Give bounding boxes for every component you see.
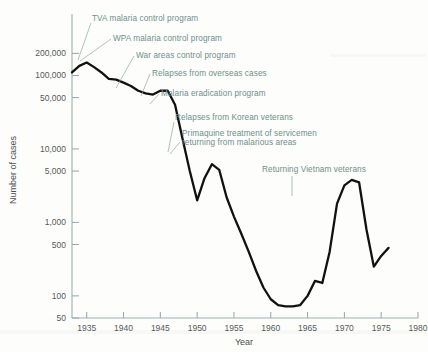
x-tick-label: 1940 [114, 323, 133, 333]
annotation-label-wpa: WPA malaria control program [113, 34, 222, 43]
y-tick-label: 5,000 [45, 166, 67, 176]
chart-series-group [72, 63, 389, 307]
annotation-leader-line [168, 122, 174, 152]
y-tick-label: 1,000 [45, 217, 67, 227]
y-axis-title: Number of cases [8, 135, 18, 204]
annotation-label-tva: TVA malaria control program [92, 14, 198, 23]
chart-axes [72, 14, 418, 318]
annotation-label-primaquine-line2: returning from malarious areas [182, 138, 297, 147]
y-tick-label: 100 [52, 291, 66, 301]
y-tick-label: 50,000 [40, 93, 66, 103]
x-tick-label: 1970 [335, 323, 354, 333]
chart-plot: 501005001,0005,00010,00050,000100,000200… [0, 0, 428, 352]
x-tick-label: 1965 [298, 323, 317, 333]
annotation-label-war-areas: War areas control program [136, 51, 236, 60]
annotation-label-eradication: Malaria eradication program [161, 89, 266, 98]
chart-figure: 501005001,0005,00010,00050,000100,000200… [0, 0, 428, 352]
x-axis-ticks: 1935194019451950195519601965197019751980 [77, 312, 427, 333]
annotation-leader-line [150, 94, 159, 104]
data-series-line [72, 63, 389, 307]
x-tick-label: 1935 [77, 323, 96, 333]
y-tick-label: 500 [52, 240, 66, 250]
annotation-leader-line [80, 39, 111, 61]
annotation-label-primaquine: Primaquine treatment of servicemen [182, 129, 317, 138]
x-tick-label: 1945 [151, 323, 170, 333]
y-tick-label: 10,000 [40, 144, 66, 154]
chart-annotations: TVA malaria control programWPA malaria c… [78, 14, 366, 196]
x-tick-label: 1975 [372, 323, 391, 333]
annotation-label-relapses-korean: Relapses from Korean veterans [175, 113, 293, 122]
x-tick-label: 1960 [261, 323, 280, 333]
annotation-label-vietnam: Returning Vietnam veterans [262, 165, 366, 174]
x-tick-label: 1950 [188, 323, 207, 333]
x-tick-label: 1980 [409, 323, 428, 333]
y-tick-label: 100,000 [35, 70, 66, 80]
y-tick-label: 200,000 [35, 48, 66, 58]
annotation-label-relapses-overseas: Relapses from overseas cases [152, 69, 267, 78]
x-axis-title: Year [235, 337, 253, 347]
y-tick-label: 50 [57, 313, 67, 323]
annotation-leader-line [170, 142, 180, 154]
x-tick-label: 1955 [224, 323, 243, 333]
